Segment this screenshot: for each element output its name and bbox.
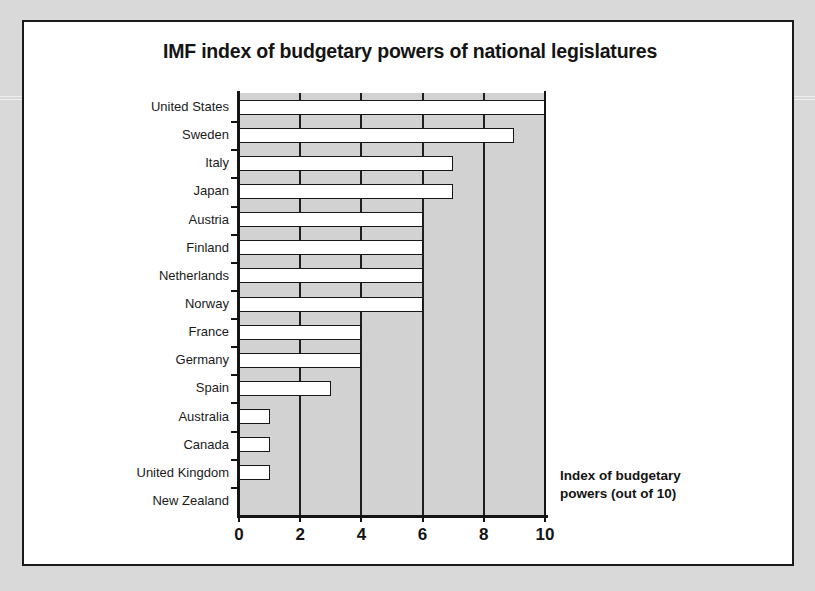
axis-annotation: Index of budgetary powers (out of 10) — [560, 467, 750, 503]
y-axis-category-label: United Kingdom — [24, 465, 229, 480]
x-axis-tick-6 — [422, 515, 424, 522]
y-axis-category-label: New Zealand — [24, 493, 229, 508]
x-axis-tick-label-6: 6 — [403, 525, 443, 545]
bar — [239, 156, 453, 171]
y-axis-category-label: Finland — [24, 240, 229, 255]
y-axis-category-label: Canada — [24, 437, 229, 452]
bar — [239, 268, 423, 283]
x-axis-tick-label-10: 10 — [525, 525, 565, 545]
y-axis-category-label: United States — [24, 99, 229, 114]
y-axis-category-label: France — [24, 324, 229, 339]
y-axis-category-label: Sweden — [24, 127, 229, 142]
x-axis-tick-0 — [238, 515, 240, 522]
bar — [239, 128, 514, 143]
x-axis-tick-10 — [544, 515, 546, 522]
x-axis-tick-8 — [483, 515, 485, 522]
x-axis-tick-2 — [299, 515, 301, 522]
y-axis-category-label: Austria — [24, 212, 229, 227]
bar — [239, 325, 361, 340]
bar — [239, 212, 423, 227]
y-axis-line — [237, 91, 240, 517]
x-axis-tick-label-2: 2 — [280, 525, 320, 545]
chart-card: IMF index of budgetary powers of nationa… — [22, 20, 794, 566]
y-axis-category-label: Japan — [24, 183, 229, 198]
plot-right-border — [544, 91, 546, 517]
bar — [239, 381, 331, 396]
x-axis-line — [237, 515, 548, 518]
x-axis-tick-4 — [360, 515, 362, 522]
bar — [239, 184, 453, 199]
axis-annotation-line-1: Index of budgetary — [560, 467, 750, 485]
y-axis-category-label: Norway — [24, 296, 229, 311]
y-axis-category-label: Netherlands — [24, 268, 229, 283]
y-axis-category-label: Italy — [24, 155, 229, 170]
bar — [239, 409, 270, 424]
bar — [239, 100, 545, 115]
bar — [239, 297, 423, 312]
x-axis-tick-label-8: 8 — [464, 525, 504, 545]
bar — [239, 240, 423, 255]
chart-plot-wrapper: United StatesSwedenItalyJapanAustriaFinl… — [24, 22, 796, 568]
x-axis-tick-label-0: 0 — [219, 525, 259, 545]
x-axis-tick-label-4: 4 — [341, 525, 381, 545]
y-axis-category-label: Germany — [24, 352, 229, 367]
gridline-x-8 — [483, 93, 485, 515]
bar — [239, 465, 270, 480]
y-axis-category-label: Australia — [24, 409, 229, 424]
axis-annotation-line-2: powers (out of 10) — [560, 485, 750, 503]
bar — [239, 353, 361, 368]
bar — [239, 437, 270, 452]
y-axis-category-label: Spain — [24, 380, 229, 395]
